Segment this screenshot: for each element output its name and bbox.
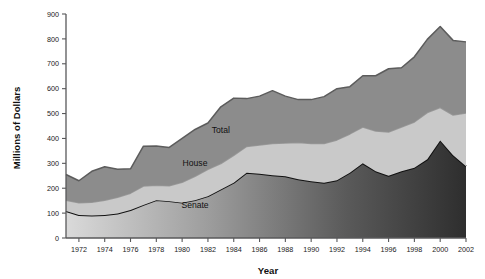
x-tick-label: 1980 <box>174 245 190 254</box>
series-label-senate: Senate <box>181 200 208 210</box>
x-tick-label: 1990 <box>303 245 319 254</box>
x-tick-label: 1986 <box>252 245 268 254</box>
x-tick-label: 1976 <box>123 245 139 254</box>
chart-container: 0100200300400500600700800900197219741976… <box>0 0 485 279</box>
y-tick-label: 800 <box>47 35 59 44</box>
y-tick-label: 300 <box>47 159 59 168</box>
y-tick-label: 400 <box>47 134 59 143</box>
x-tick-label: 1988 <box>277 245 293 254</box>
x-tick-label: 1984 <box>226 245 242 254</box>
series-label-house: House <box>183 158 208 168</box>
x-tick-label: 1974 <box>97 245 113 254</box>
x-tick-label: 2000 <box>432 245 448 254</box>
series-label-total: Total <box>212 125 230 135</box>
y-tick-label: 200 <box>47 184 59 193</box>
stacked-area-chart: 0100200300400500600700800900197219741976… <box>0 0 485 279</box>
area-series-group <box>66 26 466 238</box>
y-tick-label: 600 <box>47 84 59 93</box>
y-tick-label: 500 <box>47 109 59 118</box>
y-tick-label: 100 <box>47 209 59 218</box>
x-axis-title: Year <box>258 265 279 276</box>
y-tick-label: 0 <box>55 234 59 243</box>
x-tick-label: 1982 <box>200 245 216 254</box>
x-tick-label: 1998 <box>406 245 422 254</box>
x-tick-label: 1972 <box>71 245 87 254</box>
x-tick-label: 1994 <box>355 245 371 254</box>
x-tick-label: 1996 <box>381 245 397 254</box>
y-axis-title: Millions of Dollars <box>11 87 22 170</box>
y-tick-label: 700 <box>47 59 59 68</box>
x-tick-label: 1992 <box>329 245 345 254</box>
x-tick-label: 1978 <box>148 245 164 254</box>
y-tick-label: 900 <box>47 10 59 19</box>
x-tick-label: 2002 <box>458 245 474 254</box>
